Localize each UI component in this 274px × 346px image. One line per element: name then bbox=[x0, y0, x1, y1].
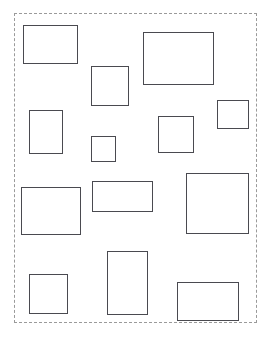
shape-rect-2[interactable] bbox=[143, 32, 214, 85]
shape-rect-3[interactable] bbox=[91, 66, 129, 106]
shape-rect-1[interactable] bbox=[23, 25, 78, 64]
shape-rect-7[interactable] bbox=[158, 116, 194, 153]
shape-rect-8[interactable] bbox=[21, 187, 81, 235]
shape-rect-10[interactable] bbox=[186, 173, 249, 234]
shape-rect-6[interactable] bbox=[91, 136, 116, 162]
shape-rect-12[interactable] bbox=[107, 251, 148, 315]
shape-rect-5[interactable] bbox=[217, 100, 249, 129]
shape-rect-13[interactable] bbox=[177, 282, 239, 321]
shape-rect-11[interactable] bbox=[29, 274, 68, 314]
shape-rect-4[interactable] bbox=[29, 110, 63, 154]
canvas-root bbox=[0, 0, 274, 346]
shape-rect-9[interactable] bbox=[92, 181, 153, 212]
